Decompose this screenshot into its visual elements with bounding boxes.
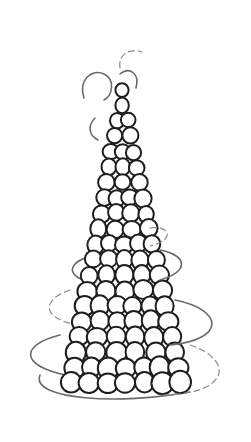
ball	[121, 113, 136, 127]
ball	[115, 83, 128, 97]
ball	[116, 158, 131, 175]
ball	[79, 373, 100, 393]
spiral-strand	[120, 51, 142, 68]
ball	[126, 145, 141, 160]
spiral-strand	[90, 118, 98, 140]
ball	[115, 98, 128, 114]
ball	[102, 158, 117, 175]
ball	[129, 160, 145, 175]
ball	[98, 174, 115, 191]
ball-tower	[61, 83, 191, 394]
croquembouche-sketch	[0, 0, 251, 442]
ball	[169, 371, 191, 393]
ball	[115, 174, 131, 189]
ball	[122, 204, 139, 222]
spiral-strand	[83, 72, 112, 100]
spiral-strand	[31, 335, 65, 375]
ball	[134, 190, 151, 208]
ball	[115, 373, 135, 392]
ball	[131, 174, 147, 191]
ball	[107, 128, 122, 143]
ball	[122, 127, 138, 143]
